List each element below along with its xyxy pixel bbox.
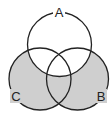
venn-diagram: A C B	[0, 0, 112, 121]
shaded-region	[9, 48, 109, 110]
label-b: B	[97, 89, 106, 104]
label-c: C	[11, 89, 20, 104]
label-a: A	[55, 5, 64, 20]
